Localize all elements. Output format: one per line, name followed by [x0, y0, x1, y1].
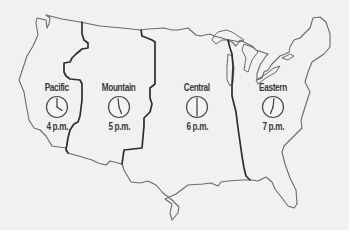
- zone-time-pacific: 4 p.m.: [46, 121, 68, 132]
- zone-pacific: Pacific 4 p.m.: [27, 82, 87, 132]
- zone-name-pacific: Pacific: [45, 82, 69, 93]
- clock-icon-eastern: [261, 95, 285, 119]
- zone-mountain: Mountain 5 p.m.: [89, 82, 149, 132]
- zone-name-mountain: Mountain: [102, 82, 136, 93]
- zone-time-eastern: 7 p.m.: [262, 121, 284, 132]
- zone-time-central: 6 p.m.: [186, 121, 208, 132]
- zone-central: Central 6 p.m.: [167, 82, 227, 132]
- zone-eastern: Eastern 7 p.m.: [243, 82, 303, 132]
- clock-icon-pacific: [45, 95, 69, 119]
- zone-name-eastern: Eastern: [259, 82, 287, 93]
- clock-icon-mountain: [107, 95, 131, 119]
- zone-name-central: Central: [184, 82, 210, 93]
- time-zone-map: Pacific 4 p.m. Mountain 5 p.m. Central 6…: [0, 0, 349, 230]
- zone-time-mountain: 5 p.m.: [108, 121, 130, 132]
- clock-icon-central: [185, 95, 209, 119]
- lake-huron: [242, 44, 258, 72]
